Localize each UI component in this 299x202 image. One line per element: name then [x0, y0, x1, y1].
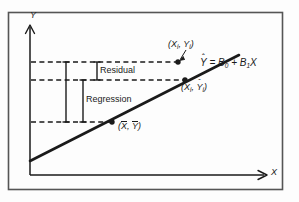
regression-diagram: Y X Residual Regression (Xi, Yi) (Xi, ˆY… [0, 0, 299, 202]
equation-x-symbol: X [250, 57, 257, 68]
diagram-canvas [0, 0, 299, 202]
fitted-point-label: (Xi, ˆYi) [181, 83, 207, 93]
observed-point-label: (Xi, Yi) [168, 40, 194, 50]
fitted-y-hat-group: ˆY [196, 83, 202, 92]
observed-paren-close: ) [191, 39, 194, 49]
mean-paren-close: ) [138, 121, 141, 131]
overbar-accent-icon [132, 121, 138, 122]
observed-point-marker [175, 59, 180, 64]
regression-label: Regression [86, 95, 132, 104]
mean-y-bar-group: Y [132, 122, 138, 131]
overbar-accent-icon [121, 121, 127, 122]
y-axis-label: Y [30, 11, 36, 20]
mean-point-marker [109, 119, 114, 124]
mean-x-bar-group: X [121, 122, 127, 131]
equation-equals: = [207, 57, 218, 68]
hat-accent-icon: ˆ [198, 78, 201, 86]
mean-point-label: (X, Y) [118, 122, 141, 131]
x-axis-label: X [271, 168, 277, 177]
hat-accent-icon: ˆ [202, 53, 205, 62]
fitted-paren-close: ) [204, 82, 207, 92]
residual-label: Residual [100, 66, 135, 75]
mean-y-symbol: Y [132, 121, 138, 131]
mean-x-symbol: X [121, 121, 127, 131]
regression-equation-label: ˆY = B0 + B1X [200, 58, 257, 69]
equation-b0-symbol: B [218, 57, 225, 68]
total-deviation-bracket [63, 62, 70, 122]
equation-y-hat-group: ˆY [200, 58, 207, 68]
equation-plus: + [228, 57, 239, 68]
